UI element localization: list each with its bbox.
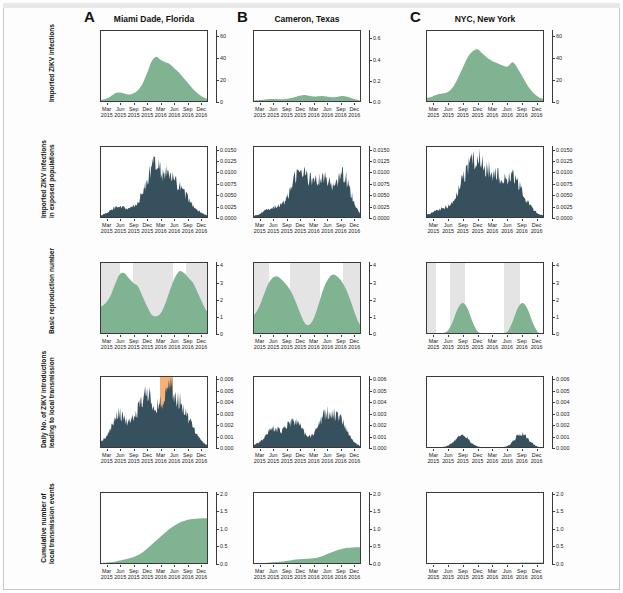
- x-tick-label: Sep2016: [516, 452, 528, 464]
- x-tick-mark: [354, 103, 355, 105]
- x-tick-mark: [300, 335, 301, 337]
- x-tick-year: 2015: [267, 112, 279, 118]
- x-tick-year: 2016: [195, 112, 207, 118]
- y-tick-label: 0.001: [220, 434, 234, 440]
- y-tick-mark: [216, 494, 219, 495]
- x-tick-label: Mar2016: [308, 338, 320, 350]
- x-tick-year: 2016: [531, 574, 543, 580]
- x-tick-label: Dec2016: [531, 568, 543, 580]
- x-tick-year: 2016: [168, 344, 180, 350]
- y-tick-label: 1.0: [556, 526, 564, 532]
- x-tick-label: Dec2016: [348, 106, 360, 118]
- y-tick-mark: [369, 195, 372, 196]
- y-tick-label: 0.006: [220, 376, 234, 382]
- series-area-r5c2: [254, 493, 360, 563]
- x-tick-mark: [463, 219, 464, 221]
- y-tick-mark: [552, 80, 555, 81]
- x-tick-mark: [341, 565, 342, 567]
- x-tick-label: Jun2016: [168, 568, 180, 580]
- x-axis-r3c1: Mar2015Jun2015Sep2015Dec2015Mar2016Jun20…: [100, 335, 208, 349]
- x-tick-year: 2016: [168, 112, 180, 118]
- x-tick-label: Sep2015: [281, 568, 293, 580]
- plot-area-r4c3: [427, 377, 543, 447]
- y-tick-mark: [369, 161, 372, 162]
- x-tick-mark: [260, 335, 261, 337]
- y-tick-label: 0.6: [373, 35, 381, 41]
- x-tick-year: 2015: [427, 458, 439, 464]
- y-axis-spine: [216, 262, 217, 334]
- x-tick-label: Jun2015: [267, 106, 279, 118]
- x-tick-label: Dec2016: [195, 106, 207, 118]
- plot-area-r3c2: [254, 263, 360, 333]
- x-tick-mark: [433, 335, 434, 337]
- y-tick-label: 4: [556, 262, 559, 268]
- y-tick-label: 0.0150: [556, 147, 573, 153]
- y-axis-r4c1: 0.0000.0010.0020.0030.0040.0050.006: [216, 376, 250, 448]
- x-tick-year: 2016: [195, 574, 207, 580]
- plot-r4c2: [253, 376, 361, 448]
- x-tick-year: 2015: [267, 228, 279, 234]
- x-tick-mark: [134, 449, 135, 451]
- x-tick-label: Jun2016: [321, 568, 333, 580]
- x-tick-year: 2015: [114, 344, 126, 350]
- series-area-r5c3: [427, 493, 543, 563]
- x-tick-label: Sep2015: [457, 452, 469, 464]
- x-tick-label: Dec2015: [141, 106, 153, 118]
- y-tick-mark: [369, 546, 372, 547]
- x-tick-year: 2015: [267, 458, 279, 464]
- x-tick-year: 2016: [182, 112, 194, 118]
- x-tick-year: 2015: [114, 228, 126, 234]
- x-tick-label: Jun2016: [168, 452, 180, 464]
- x-tick-mark: [448, 565, 449, 567]
- x-tick-mark: [161, 103, 162, 105]
- y-tick-label: 0.0150: [220, 147, 237, 153]
- x-tick-label: Mar2015: [427, 106, 439, 118]
- plot-r3c2: [253, 262, 361, 334]
- x-tick-year: 2015: [114, 574, 126, 580]
- x-tick-mark: [433, 565, 434, 567]
- series-area-r3c3: [427, 263, 543, 333]
- x-tick-label: Mar2016: [155, 106, 167, 118]
- x-tick-label: Sep2016: [182, 222, 194, 234]
- x-tick-year: 2016: [308, 112, 320, 118]
- plot-r5c1: [100, 492, 208, 564]
- plot-r3c1: [100, 262, 208, 334]
- x-tick-mark: [478, 103, 479, 105]
- y-tick-mark: [552, 265, 555, 266]
- x-tick-label: Mar2016: [308, 568, 320, 580]
- x-tick-year: 2016: [348, 458, 360, 464]
- x-tick-mark: [463, 335, 464, 337]
- plot-r1c1: [100, 30, 208, 102]
- plot-area-r5c1: [101, 493, 207, 563]
- y-tick-label: 0.0125: [556, 158, 573, 164]
- y-tick-mark: [369, 391, 372, 392]
- x-tick-year: 2016: [182, 458, 194, 464]
- y-tick-label: 0.002: [556, 422, 570, 428]
- x-tick-year: 2015: [294, 574, 306, 580]
- x-tick-label: Dec2015: [472, 106, 484, 118]
- x-tick-label: Mar2015: [254, 106, 266, 118]
- x-tick-year: 2015: [442, 458, 454, 464]
- plot-area-r1c3: [427, 31, 543, 101]
- x-tick-year: 2016: [501, 574, 513, 580]
- series-area-r1c3: [427, 31, 543, 101]
- figure-root: AMiami Dade, FloridaBCameron, TexasCNYC,…: [0, 0, 623, 593]
- x-tick-year: 2015: [101, 344, 113, 350]
- y-tick-label: 3: [556, 280, 559, 286]
- x-tick-label: Jun2015: [267, 222, 279, 234]
- x-tick-mark: [327, 103, 328, 105]
- y-tick-label: 0.0: [556, 561, 564, 567]
- x-tick-year: 2016: [501, 458, 513, 464]
- x-tick-year: 2016: [321, 228, 333, 234]
- y-tick-label: 0: [556, 331, 559, 337]
- x-tick-mark: [354, 449, 355, 451]
- y-tick-label: 0.0125: [220, 158, 237, 164]
- x-tick-year: 2015: [442, 574, 454, 580]
- x-tick-year: 2015: [457, 344, 469, 350]
- y-tick-label: 1: [220, 314, 223, 320]
- x-tick-mark: [537, 219, 538, 221]
- y-tick-mark: [552, 564, 555, 565]
- y-tick-mark: [369, 494, 372, 495]
- x-tick-mark: [507, 219, 508, 221]
- x-tick-label: Sep2016: [516, 106, 528, 118]
